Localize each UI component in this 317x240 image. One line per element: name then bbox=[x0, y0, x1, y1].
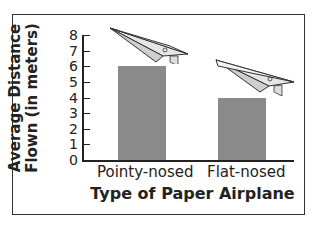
y-axis-label-line-2: Flown (in meters) bbox=[24, 23, 41, 173]
y-tick-label: 4 bbox=[64, 91, 78, 105]
x-tick-label-flat-nosed: Flat-nosed bbox=[207, 163, 286, 181]
paper-airplane-icon bbox=[108, 26, 190, 64]
x-tick-label-pointy-nosed: Pointy-nosed bbox=[97, 163, 194, 181]
y-axis-line bbox=[82, 35, 84, 162]
y-axis-label: Average Distance Flown (in meters) bbox=[7, 23, 41, 173]
bar-flat-nosed bbox=[218, 98, 266, 161]
y-tick-label: 8 bbox=[64, 28, 78, 42]
y-tick-label: 7 bbox=[64, 44, 78, 58]
y-tick-label: 6 bbox=[64, 59, 78, 73]
y-tick-label: 2 bbox=[64, 122, 78, 136]
y-tick-label: 5 bbox=[64, 75, 78, 89]
y-tick-label: 3 bbox=[64, 106, 78, 120]
y-tick-label: 1 bbox=[64, 137, 78, 151]
paper-airplane-icon bbox=[214, 58, 296, 96]
y-axis-label-line-1: Average Distance bbox=[7, 23, 24, 173]
x-axis-line bbox=[82, 160, 294, 162]
x-axis-label: Type of Paper Airplane bbox=[0, 184, 317, 203]
y-tick-label: 0 bbox=[64, 153, 78, 167]
bar-pointy-nosed bbox=[118, 66, 166, 160]
